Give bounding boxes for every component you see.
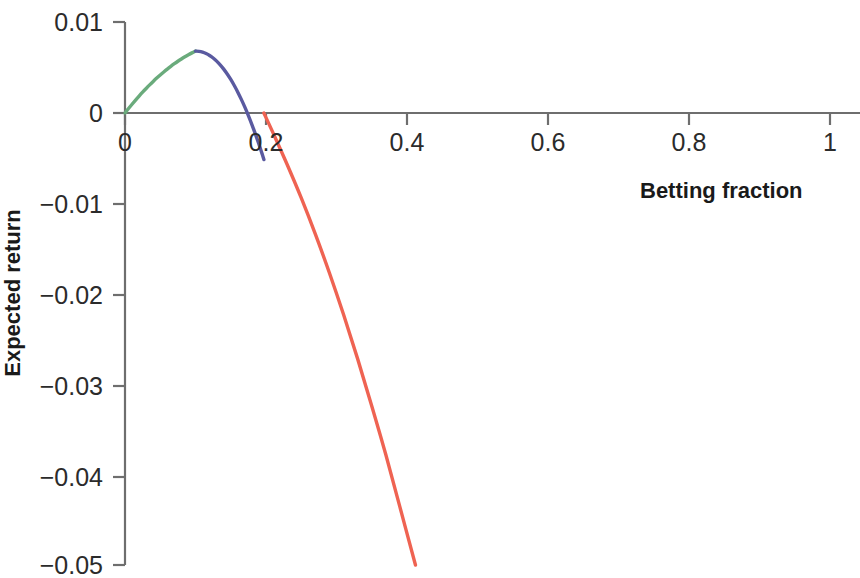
x-tick-label-0.8: 0.8: [672, 128, 707, 157]
x-tick-label-0.6: 0.6: [531, 128, 566, 157]
x-tick-label-1: 1: [823, 128, 837, 157]
y-tick-label-minus0.05: −0.05: [0, 551, 103, 578]
y-tick-label-minus0.04: −0.04: [0, 463, 103, 492]
x-axis-ticks: [125, 113, 830, 125]
y-axis-ticks: [113, 22, 125, 565]
y-axis-title: Expected return: [0, 178, 26, 408]
x-tick-label-0: 0: [118, 128, 132, 157]
y-tick-label-0: 0: [0, 99, 103, 128]
x-tick-label-0.2: 0.2: [249, 128, 284, 157]
curve-segment-negative: [264, 113, 416, 565]
y-tick-label-0.01: 0.01: [0, 8, 103, 37]
x-axis-title: Betting fraction: [640, 178, 803, 204]
curve-segment-rising: [125, 51, 196, 113]
x-tick-label-0.4: 0.4: [390, 128, 425, 157]
